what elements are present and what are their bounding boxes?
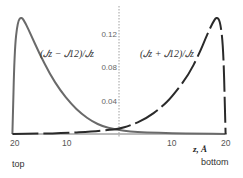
top-label: top [12, 159, 25, 169]
y-tick-label: 0.04 [101, 97, 117, 106]
x-tick-label: 10 [62, 138, 72, 148]
x-tick-label: 20 [221, 138, 231, 148]
x-tick-label: 10 [167, 138, 177, 148]
y-tick-label: 0.12 [101, 30, 117, 39]
x-tick-label: 20 [10, 138, 20, 148]
series-minus-label: (𝐽z − 𝐽12)/𝐽z [40, 48, 94, 60]
series-plus-label: (𝐽z + 𝐽12)/𝐽z [140, 48, 194, 60]
y-tick-label: 0.08 [101, 63, 117, 72]
x-axis-label: z, Å [192, 144, 207, 154]
bottom-label: bottom [201, 157, 229, 167]
chart-canvas: 0.12 0.08 0.04 (𝐽z − 𝐽12)/𝐽z (𝐽z + 𝐽12)/… [0, 0, 243, 178]
